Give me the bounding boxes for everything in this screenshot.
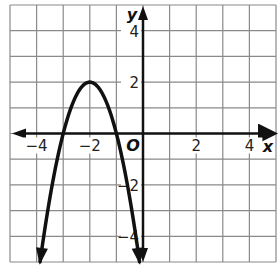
coordinate-plane: −4−22442−2−4Oxy [0,0,278,270]
x-axis-label: x [262,137,274,156]
y-tick-label: 2 [129,74,139,92]
x-tick-label: 4 [245,137,255,155]
x-tick-label: −2 [79,137,101,155]
y-tick-label: 4 [129,23,139,41]
y-axis-label: y [127,5,138,24]
x-tick-label: 2 [191,137,201,155]
x-tick-label: −4 [26,137,48,155]
axes [12,6,268,262]
y-axis-up-arrow-icon [138,6,148,20]
origin-label: O [126,136,140,155]
x-axis-left-arrow-icon [12,129,26,139]
